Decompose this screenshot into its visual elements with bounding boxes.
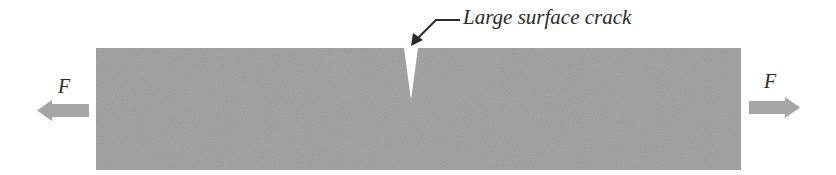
force-right-label: F [764, 70, 776, 93]
specimen-bar [96, 48, 741, 170]
diagram-graphics [0, 0, 836, 175]
force-left-label: F [58, 75, 70, 98]
crack-label: Large surface crack [463, 5, 631, 30]
force-arrow-right-icon [749, 97, 800, 118]
crack-leader-arrow [411, 20, 460, 46]
diagram-canvas: Large surface crack F F [0, 0, 836, 175]
force-arrow-left-icon [37, 100, 89, 121]
